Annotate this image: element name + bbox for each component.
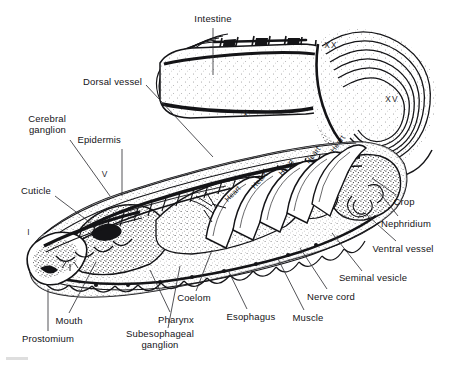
label-muscle: Muscle <box>293 313 324 324</box>
segment-marker-xx: XX <box>324 40 337 50</box>
label-nerve-cord: Nerve cord <box>307 292 355 303</box>
segment-marker-xv: XV <box>385 94 398 104</box>
segment-marker-x: X <box>243 109 250 119</box>
label-esophagus: Esophagus <box>227 312 276 323</box>
segment-marker-v: V <box>102 169 109 179</box>
segment-marker-i: I <box>27 227 30 237</box>
earthworm-anatomy-figure: Intestine Dorsal vessel Cerebral ganglio… <box>0 0 460 369</box>
label-pharynx: Pharynx <box>158 315 194 326</box>
label-intestine: Intestine <box>194 14 231 25</box>
page-artifact-mark <box>6 357 28 360</box>
label-dorsal-vessel: Dorsal vessel <box>83 77 142 88</box>
label-crop: Crop <box>393 197 414 208</box>
label-nephridium: Nephridium <box>381 219 431 230</box>
body-trunk <box>20 140 420 310</box>
label-coelom: Coelom <box>177 293 211 304</box>
label-prostomium: Prostomium <box>22 334 74 345</box>
label-seminal-vesicle: Seminal vesicle <box>339 273 407 284</box>
label-subesophageal-ganglion: Subesophageal ganglion <box>126 329 194 350</box>
label-ventral-vessel: Ventral vessel <box>372 244 433 255</box>
label-epidermis: Epidermis <box>77 135 121 146</box>
label-mouth: Mouth <box>55 316 82 327</box>
label-cuticle: Cuticle <box>21 186 51 197</box>
label-cerebral-ganglion: Cerebral ganglion <box>28 114 66 135</box>
